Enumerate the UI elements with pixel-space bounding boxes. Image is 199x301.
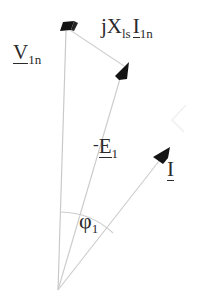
label-jxi: jXlsI1n [101,16,153,38]
label-e1-subscript: 1 [112,146,119,161]
label-jxi-subscript: 1n [140,26,153,41]
label-phi-subscript: 1 [92,221,99,236]
label-e1: -E1 [93,137,118,158]
vector-line-i [58,156,163,290]
label-jxi-symbol: I [133,17,140,38]
label-e1-prefix: - [93,135,99,154]
label-jxi-prefix-subscript: ls [122,26,131,41]
label-v1n-symbol: V [13,43,28,64]
label-jxi-prefix: jX [101,14,122,38]
label-e1-symbol: E [99,137,112,158]
label-v1n-subscript: 1n [28,52,41,67]
label-i-symbol: I [167,160,174,181]
label-i: I [167,160,174,181]
label-phi-1: φ1 [79,210,98,232]
label-v1n: V1n [13,43,41,64]
label-phi-symbol: φ [79,208,92,233]
scan-artifact [172,105,186,132]
vector-line-v1n [58,31,66,290]
phasor-diagram: V1n jXlsI1n -E1 I φ1 [0,0,199,301]
vector-line-e1 [58,72,122,290]
